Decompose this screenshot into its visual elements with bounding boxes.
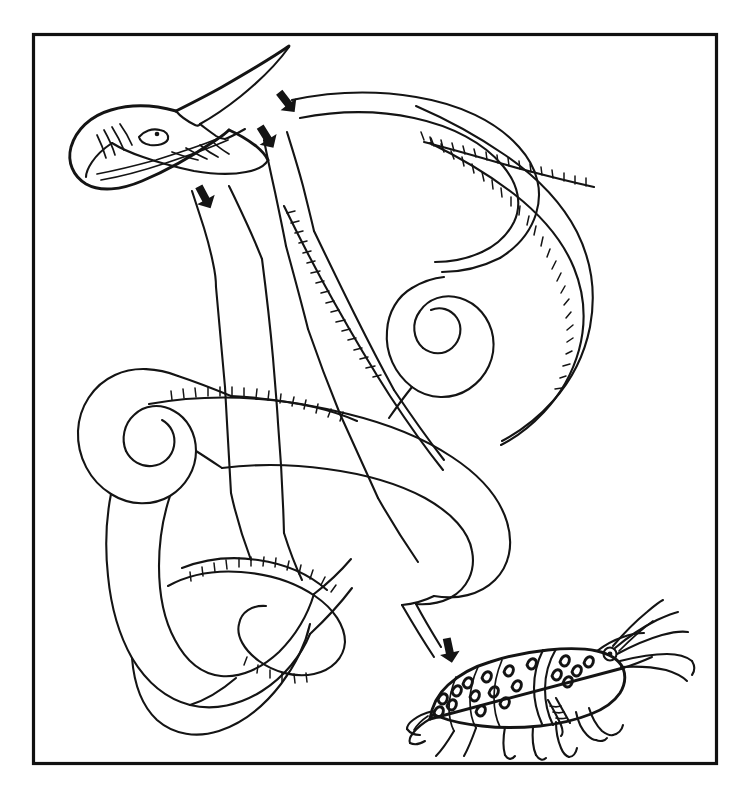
sucker-row-mid-band — [171, 387, 343, 421]
motion-arrow-2 — [252, 121, 282, 153]
shrimp-legs — [436, 708, 623, 760]
motion-arrow-4 — [437, 636, 462, 665]
shrimp-antennae — [615, 612, 694, 681]
illustration-border — [34, 35, 717, 764]
squid-mantle-fin — [176, 46, 289, 139]
shrimp-chelipeds — [548, 698, 570, 736]
squid-eye — [139, 129, 168, 145]
squid-tentacle-long-right — [416, 106, 593, 445]
squid-gill-lines — [97, 124, 132, 158]
illustration-figure: Squid capturing shrimp prey squid shrimp… — [0, 0, 731, 790]
squid-tentacle-center-loops — [222, 396, 510, 605]
squid-tentacle-loop-bottom-outer — [132, 624, 310, 735]
squid-tentacle-crossing-strands — [216, 231, 444, 533]
squid-head — [70, 106, 268, 189]
squid-spiral-coil-right — [387, 277, 494, 418]
squid — [70, 46, 594, 735]
squid-tentacle-sucker-band-upper — [424, 137, 594, 187]
squid-tentacle-tip-strands — [231, 414, 441, 657]
squid-tentacle-diagonal-suckers — [284, 206, 443, 470]
motion-arrow-1 — [271, 86, 302, 118]
squid-arms-short — [192, 132, 314, 287]
squid-tentacle-upper-right — [292, 93, 539, 272]
squid-tentacle-lower-arc — [106, 494, 352, 707]
line-drawing-canvas — [0, 0, 731, 790]
shrimp-speckle-markings — [434, 656, 593, 717]
shrimp — [407, 600, 694, 760]
sucker-row-diagonal-tentacle — [287, 211, 381, 377]
